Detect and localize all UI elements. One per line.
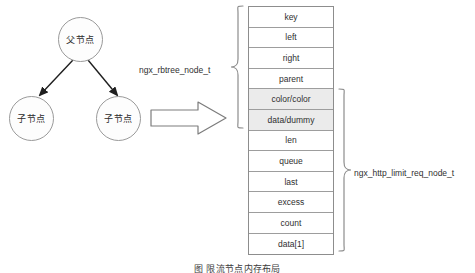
struct-field-label: right [283,53,300,63]
struct-field-row: parent [249,69,333,90]
struct-field-row: color/color [249,89,333,110]
struct-field-label: parent [279,74,303,84]
struct-field-label: excess [278,197,304,207]
left-brace-label: ngx_rbtree_node_t [139,65,210,75]
struct-field-row: queue [249,151,333,172]
struct-field-row: left [249,28,333,49]
struct-field-row: key [249,7,333,28]
struct-field-label: queue [279,156,303,166]
block-arrow-right-icon [150,100,228,136]
struct-field-label: color/color [271,94,310,104]
tree-node-child-right: 子节点 [96,96,141,141]
struct-field-label: last [284,177,297,187]
struct-field-row: right [249,48,333,69]
struct-field-row: count [249,213,333,234]
tree-node-parent-label: 父节点 [66,33,95,46]
struct-field-label: data[1] [278,239,304,249]
struct-field-row: data[1] [249,234,333,255]
struct-field-row: data/dummy [249,110,333,131]
tree-node-parent: 父节点 [58,17,103,62]
tree-node-child-left: 子节点 [9,96,54,141]
edge-parent-to-right-child [88,60,117,95]
struct-field-row: excess [249,192,333,213]
right-brace-label: ngx_http_limit_req_node_t [354,168,454,178]
struct-layout-table: keyleftrightparentcolor/colordata/dummyl… [248,6,334,255]
struct-field-label: count [281,218,302,228]
tree-node-child-left-label: 子节点 [17,112,46,125]
struct-field-label: len [285,135,296,145]
struct-field-label: key [284,12,297,22]
left-brace [228,5,246,129]
struct-field-row: last [249,172,333,193]
struct-field-label: left [285,32,296,42]
tree-node-child-right-label: 子节点 [104,112,133,125]
edge-parent-to-left-child [40,60,73,95]
figure-caption: 图 限流节点内存布局 [0,262,475,273]
struct-field-label: data/dummy [268,115,315,125]
right-brace [336,88,354,252]
struct-field-row: len [249,131,333,152]
diagram-canvas: 父节点 子节点 子节点 ngx_rbtree_node_t ngx_http_l… [0,0,475,273]
